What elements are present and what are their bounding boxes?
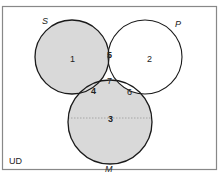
set-label-s: S bbox=[42, 16, 48, 26]
venn-diagram: S P M 1 2 3 4 5 6 7 UD bbox=[0, 0, 219, 172]
set-label-p: P bbox=[175, 19, 181, 29]
region-label-5: 5 bbox=[107, 50, 112, 60]
region-label-1: 1 bbox=[70, 54, 75, 64]
region-label-7: 7 bbox=[107, 76, 112, 86]
universe-label: UD bbox=[9, 156, 22, 166]
region-label-3: 3 bbox=[108, 114, 113, 124]
region-label-4: 4 bbox=[91, 86, 96, 96]
region-label-6: 6 bbox=[127, 87, 132, 97]
region-label-2: 2 bbox=[147, 54, 152, 64]
set-label-m: M bbox=[105, 164, 113, 172]
